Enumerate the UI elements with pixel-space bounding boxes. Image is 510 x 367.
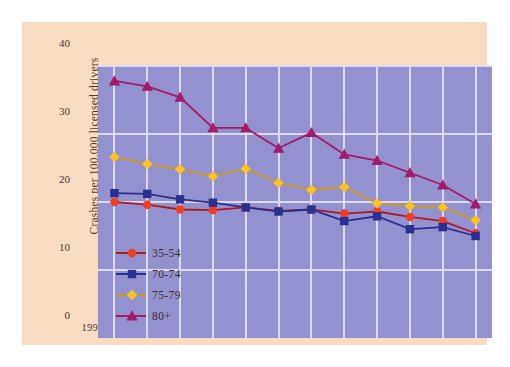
series-35-54	[110, 198, 480, 238]
data-point-marker	[176, 195, 184, 203]
data-point-marker	[438, 202, 449, 213]
data-point-marker	[110, 189, 118, 197]
data-point-marker	[406, 213, 414, 221]
data-point-marker	[339, 149, 350, 159]
data-point-marker	[109, 75, 120, 85]
data-point-marker	[274, 207, 282, 215]
data-point-marker	[471, 232, 479, 240]
series-80+	[109, 75, 482, 208]
data-point-marker	[406, 225, 414, 233]
data-point-marker	[142, 159, 153, 170]
legend-marker-circle-icon	[125, 246, 139, 260]
y-axis-tick-label: 30	[44, 105, 70, 117]
data-point-marker	[340, 209, 348, 217]
legend-swatch-line	[116, 252, 146, 254]
legend-swatch-line	[116, 315, 146, 317]
y-axis-tick-label: 0	[44, 309, 70, 321]
data-point-marker	[209, 198, 217, 206]
data-point-marker	[176, 205, 184, 213]
legend-item-70-74[interactable]: 70-74	[116, 263, 181, 284]
legend-marker-square-icon	[125, 267, 139, 281]
y-axis-tick-label: 10	[44, 241, 70, 253]
data-point-marker	[127, 289, 138, 300]
data-point-marker	[470, 198, 481, 208]
legend-item-75-79[interactable]: 75-79	[116, 284, 181, 305]
legend-item-80+[interactable]: 80+	[116, 305, 181, 326]
legend-swatch-line	[116, 273, 146, 275]
data-point-marker	[175, 164, 186, 175]
legend-label: 75-79	[152, 289, 181, 301]
legend-item-35-54[interactable]: 35-54	[116, 242, 181, 263]
legend-label: 70-74	[152, 268, 181, 280]
chart-panel: Crashes per 100,000 licensed drivers 010…	[22, 22, 487, 345]
data-point-marker	[373, 212, 381, 220]
data-point-marker	[273, 143, 284, 153]
data-point-marker	[439, 223, 447, 231]
chart-page: Crashes per 100,000 licensed drivers 010…	[0, 0, 510, 367]
y-axis-tick-label: 20	[44, 173, 70, 185]
data-point-marker	[340, 217, 348, 225]
data-point-marker	[242, 203, 250, 211]
data-point-marker	[273, 178, 284, 189]
data-point-marker	[372, 198, 383, 209]
data-point-marker	[143, 201, 151, 209]
data-point-marker	[109, 152, 120, 163]
y-axis-tick-label: 40	[44, 37, 70, 49]
series-line	[114, 193, 475, 236]
data-point-marker	[470, 215, 481, 226]
chart-legend: 35-5470-7475-7980+	[116, 242, 181, 326]
legend-marker-diamond-icon	[125, 288, 139, 302]
data-point-marker	[306, 185, 317, 195]
legend-label: 80+	[152, 310, 171, 322]
data-point-marker	[307, 205, 315, 213]
data-point-marker	[128, 248, 136, 256]
series-70-74	[110, 189, 480, 240]
data-point-marker	[128, 269, 136, 277]
legend-swatch-line	[116, 294, 146, 296]
data-point-marker	[143, 190, 151, 198]
data-point-marker	[208, 171, 219, 182]
data-point-marker	[110, 198, 118, 206]
data-point-marker	[241, 163, 252, 174]
data-point-marker	[405, 201, 416, 212]
data-point-marker	[126, 310, 137, 320]
plot-area: 35-5470-7475-7980+	[98, 66, 492, 338]
legend-label: 35-54	[152, 247, 181, 259]
legend-marker-triangle-icon	[125, 309, 139, 323]
data-point-marker	[339, 182, 350, 193]
series-75-79	[109, 152, 481, 226]
data-point-marker	[306, 127, 317, 137]
data-point-marker	[209, 206, 217, 214]
